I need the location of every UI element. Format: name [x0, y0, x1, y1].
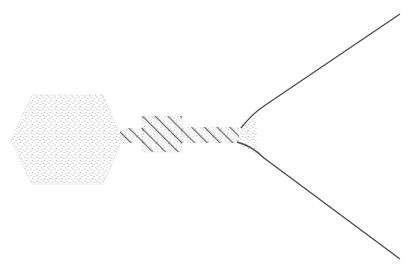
phage-diagram [0, 0, 413, 267]
collar [142, 116, 182, 152]
head-hexagon [11, 95, 122, 184]
lower-fiber [237, 142, 400, 259]
tail [181, 127, 239, 143]
upper-fiber [241, 14, 400, 128]
neck [120, 128, 144, 143]
diagram-svg [0, 0, 413, 267]
